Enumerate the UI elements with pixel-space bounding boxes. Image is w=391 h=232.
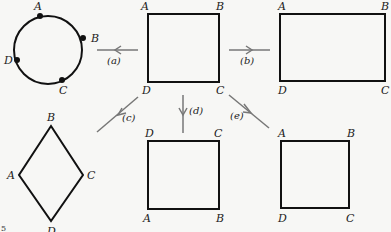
arrow-e: (e) [229, 95, 269, 128]
flipped-label-bl: A [142, 212, 151, 225]
source-label-br: C [216, 84, 225, 97]
rect-label-tr: B [380, 0, 389, 13]
rect-label-tl: A [277, 0, 286, 13]
arrow-b-label: (b) [240, 55, 254, 66]
arrow-a: (a) [97, 46, 138, 66]
rhombus-shape: B A C D [6, 111, 96, 232]
same-label-br: C [346, 212, 355, 225]
figure-number: 5 [1, 224, 6, 232]
same-label-tr: B [346, 127, 355, 140]
arrow-e-label: (e) [230, 110, 244, 121]
same-label-bl: D [277, 212, 287, 225]
circle-point-d [14, 57, 20, 63]
source-label-tl: A [140, 0, 149, 13]
rect-label-br: C [381, 84, 390, 97]
rectangle-shape: A B D C [277, 0, 390, 97]
source-label-bl: D [141, 84, 151, 97]
arrow-c: (c) [97, 97, 138, 132]
rhombus-label-top: B [46, 111, 55, 124]
flipped-label-tr: C [214, 127, 223, 140]
arrow-d-label: (d) [189, 105, 203, 116]
same-square: A B D C [277, 127, 355, 225]
circle-point-b [80, 35, 86, 41]
arrow-b: (b) [229, 46, 270, 66]
flipped-label-tl: D [144, 127, 154, 140]
transformation-diagram: A B C D (a) A B D C (b) A B D C (c) [0, 0, 391, 232]
flipped-label-br: B [215, 212, 224, 225]
source-label-tr: B [215, 0, 224, 13]
arrow-c-label: (c) [122, 112, 136, 123]
circle-label-b: B [90, 32, 99, 45]
circle-label-d: D [3, 54, 13, 67]
arrow-d: (d) [179, 95, 203, 133]
circle-shape: A B C D [3, 0, 99, 97]
circle-label-a: A [33, 0, 42, 13]
circle-label-c: C [59, 84, 68, 97]
rhombus-label-bottom: D [46, 225, 56, 232]
arrow-a-label: (a) [107, 55, 121, 66]
same-label-tl: A [277, 127, 286, 140]
source-square: A B D C [140, 0, 225, 97]
rhombus-label-right: C [87, 169, 96, 182]
circle-point-c [59, 77, 65, 83]
circle-point-a [37, 13, 43, 19]
flipped-square: D C A B [142, 127, 224, 225]
rhombus-label-left: A [6, 169, 15, 182]
rect-label-bl: D [277, 84, 287, 97]
